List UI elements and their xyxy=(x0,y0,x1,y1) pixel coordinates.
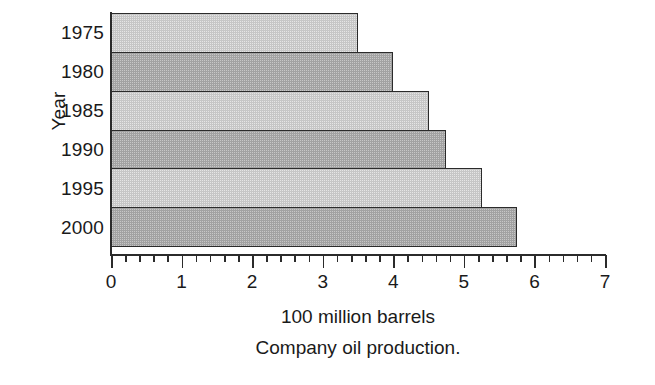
x-major-tick-0.0 xyxy=(111,255,113,268)
x-major-tick-4.0 xyxy=(393,255,395,268)
x-tick-label-2: 2 xyxy=(232,271,272,293)
x-minor-tick-5.8 xyxy=(520,255,522,262)
bar-2000 xyxy=(111,207,517,247)
x-major-tick-2.0 xyxy=(252,255,254,268)
x-axis-ticks xyxy=(111,255,605,269)
x-minor-tick-5.4 xyxy=(492,255,494,262)
x-minor-tick-1.6 xyxy=(224,255,226,262)
x-minor-tick-0.6 xyxy=(153,255,155,262)
x-major-tick-7.0 xyxy=(605,255,607,268)
x-minor-tick-3.8 xyxy=(379,255,381,262)
y-axis-line xyxy=(110,12,112,255)
x-major-tick-6.0 xyxy=(534,255,536,268)
x-minor-tick-2.6 xyxy=(294,255,296,262)
figure-caption: Company oil production. xyxy=(111,337,605,359)
x-axis-tick-labels: 01234567 xyxy=(111,271,605,295)
x-tick-label-5: 5 xyxy=(444,271,484,293)
x-minor-tick-6.4 xyxy=(563,255,565,262)
bar-chart-figure: Year 1975 1980 1985 1990 1995 2000 01234… xyxy=(0,0,655,385)
x-minor-tick-0.2 xyxy=(125,255,127,262)
x-major-tick-1.0 xyxy=(182,255,184,268)
bar-1985 xyxy=(111,91,429,131)
x-minor-tick-1.2 xyxy=(196,255,198,262)
x-minor-tick-2.8 xyxy=(309,255,311,262)
bar-1990 xyxy=(111,130,446,170)
y-tick-label-1975: 1975 xyxy=(36,23,104,42)
x-minor-tick-4.4 xyxy=(422,255,424,262)
bar-1980 xyxy=(111,52,393,92)
x-tick-label-3: 3 xyxy=(303,271,343,293)
x-tick-label-4: 4 xyxy=(373,271,413,293)
x-minor-tick-6.8 xyxy=(591,255,593,262)
x-major-tick-3.0 xyxy=(323,255,325,268)
x-tick-label-6: 6 xyxy=(514,271,554,293)
bar-1995 xyxy=(111,168,482,208)
x-tick-label-1: 1 xyxy=(162,271,202,293)
x-major-tick-5.0 xyxy=(464,255,466,268)
y-tick-label-2000: 2000 xyxy=(36,218,104,237)
x-minor-tick-6.2 xyxy=(549,255,551,262)
x-minor-tick-2.4 xyxy=(280,255,282,262)
x-tick-label-7: 7 xyxy=(585,271,625,293)
plot-area xyxy=(111,13,605,246)
x-minor-tick-4.2 xyxy=(407,255,409,262)
x-tick-label-0: 0 xyxy=(91,271,131,293)
x-minor-tick-3.4 xyxy=(351,255,353,262)
x-minor-tick-0.4 xyxy=(139,255,141,262)
x-minor-tick-5.6 xyxy=(506,255,508,262)
x-minor-tick-1.4 xyxy=(210,255,212,262)
x-minor-tick-5.2 xyxy=(478,255,480,262)
x-minor-tick-0.8 xyxy=(167,255,169,262)
y-tick-label-1990: 1990 xyxy=(36,140,104,159)
x-minor-tick-3.6 xyxy=(365,255,367,262)
bar-1975 xyxy=(111,13,358,53)
x-minor-tick-3.2 xyxy=(337,255,339,262)
y-tick-label-1980: 1980 xyxy=(36,62,104,81)
x-axis-title: 100 million barrels xyxy=(111,306,605,328)
x-minor-tick-2.2 xyxy=(266,255,268,262)
x-minor-tick-4.6 xyxy=(436,255,438,262)
y-tick-label-1995: 1995 xyxy=(36,179,104,198)
x-minor-tick-6.6 xyxy=(577,255,579,262)
x-minor-tick-4.8 xyxy=(450,255,452,262)
x-minor-tick-1.8 xyxy=(238,255,240,262)
y-tick-label-1985: 1985 xyxy=(36,101,104,120)
y-axis-tick-labels: 1975 1980 1985 1990 1995 2000 xyxy=(36,13,104,246)
